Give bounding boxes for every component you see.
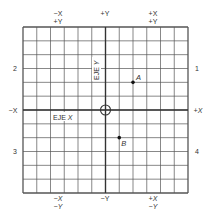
top-left-label-x: −X [54, 10, 63, 17]
bottom-left-label-x: −X [54, 195, 63, 202]
coordinate-grid-diagram: AB −X +Y +Y +X +Y −X −Y −Y +X −Y −X +X 2… [0, 0, 209, 216]
quadrant-3-label: 3 [13, 148, 17, 155]
top-left-label-y: +Y [54, 18, 63, 25]
x-axis-title-word: EJE [53, 114, 66, 121]
bottom-right-label-x: +X [149, 195, 158, 202]
top-right-label-y: +Y [149, 18, 158, 25]
point-a-label: A [135, 73, 141, 82]
bottom-left-label-y: −Y [54, 203, 64, 210]
left-edge-label: −X [9, 107, 18, 114]
quadrant-1-label: 1 [195, 65, 199, 72]
svg-text:EJEX: EJEX [53, 114, 73, 121]
axes [23, 27, 188, 193]
right-edge-label: +X [194, 107, 203, 114]
x-axis-title-var: X [67, 114, 73, 121]
quadrant-2-label: 2 [13, 65, 17, 72]
y-axis-title: EJEY [92, 57, 101, 81]
y-axis-title-word: EJE [93, 67, 100, 80]
svg-text:EJEY: EJEY [93, 59, 100, 80]
x-axis-title: EJEX [52, 112, 76, 121]
bottom-right-label-y: −Y [149, 203, 159, 210]
point-b-label: B [121, 139, 126, 148]
top-edge-label: +Y [101, 10, 110, 17]
bottom-edge-label: −Y [101, 195, 110, 202]
point-a-marker [131, 81, 135, 85]
quadrant-4-label: 4 [195, 148, 199, 155]
top-right-label-x: +X [149, 10, 158, 17]
